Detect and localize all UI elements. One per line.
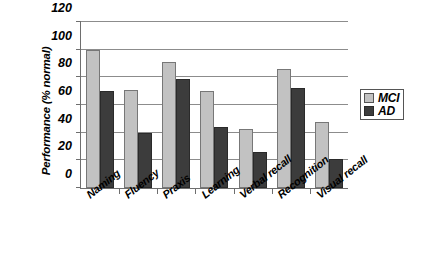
bar-mci [86,50,100,188]
y-axis-tick-label: 20 [58,139,72,153]
y-axis-tick-label: 100 [51,29,72,43]
bar-group [234,22,272,188]
y-axis-tick-label: 120 [51,1,72,15]
bar-mci [124,90,138,188]
bar-group [195,22,233,188]
bar-group [157,22,195,188]
legend-swatch-ad-icon [364,106,374,116]
bar-group [119,22,157,188]
legend-item-mci: MCI [364,92,399,105]
legend-label-ad: AD [378,105,395,118]
y-axis-tick-label: 80 [58,56,72,70]
legend-item-ad: AD [364,105,399,118]
y-axis-title: Performance (% normal) [40,21,52,201]
bar-group [81,22,119,188]
legend-swatch-mci-icon [364,93,374,103]
bar-chart: Performance (% normal) 020406080100120 N… [0,0,425,269]
y-axis-tick-label: 0 [65,167,72,181]
bar-mci [162,62,176,188]
x-axis-category-labels: NamingFluencyPraxisLearningVerbal recall… [80,191,348,261]
bar-mci [200,91,214,188]
bar-groups [81,22,348,188]
y-axis-tick-label: 60 [58,84,72,98]
legend: MCI AD [360,89,404,120]
legend-label-mci: MCI [378,92,399,105]
y-axis-tick-label: 40 [58,112,72,126]
